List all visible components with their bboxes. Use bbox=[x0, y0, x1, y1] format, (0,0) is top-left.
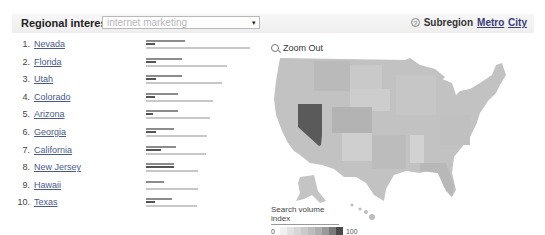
bar-top bbox=[146, 58, 182, 60]
region-bars bbox=[146, 181, 256, 193]
region-row: 2.Florida bbox=[0, 55, 260, 72]
region-bars bbox=[146, 40, 256, 52]
region-rank: 10. bbox=[17, 197, 30, 207]
search-volume-legend: Search volume index 0 100 bbox=[271, 205, 358, 235]
region-bars bbox=[146, 75, 256, 87]
legend-swatch bbox=[315, 227, 322, 235]
bar-top bbox=[146, 93, 178, 95]
legend-swatch bbox=[322, 227, 329, 235]
bar-mid bbox=[146, 201, 155, 203]
legend-swatch bbox=[287, 227, 294, 235]
region-bars bbox=[146, 198, 256, 210]
subregion-label: Subregion bbox=[424, 17, 473, 28]
region-row: 7.California bbox=[0, 143, 260, 160]
regional-interest-header: Regional interest internet marketing ▾ ?… bbox=[12, 14, 534, 33]
bar-low bbox=[146, 100, 213, 102]
help-icon[interactable]: ? bbox=[411, 18, 420, 27]
region-link[interactable]: California bbox=[34, 145, 72, 155]
region-link[interactable]: Colorado bbox=[34, 92, 71, 102]
region-link[interactable]: Nevada bbox=[34, 39, 65, 49]
dropdown-arrow-icon[interactable]: ▾ bbox=[250, 18, 258, 27]
region-rank: 2. bbox=[22, 57, 30, 67]
bar-top bbox=[146, 75, 182, 77]
region-row: 8.New Jersey bbox=[0, 160, 260, 177]
legend-swatch bbox=[294, 227, 301, 235]
bar-top bbox=[146, 128, 174, 130]
zoom-out-button[interactable]: Zoom Out bbox=[271, 43, 323, 53]
bar-low bbox=[146, 188, 198, 190]
region-bars bbox=[146, 58, 256, 70]
bar-mid bbox=[146, 78, 156, 80]
region-bars bbox=[146, 128, 256, 140]
bar-top bbox=[146, 40, 185, 42]
zoom-out-label: Zoom Out bbox=[283, 43, 323, 53]
us-map[interactable] bbox=[270, 55, 515, 225]
bar-top bbox=[146, 163, 174, 165]
region-row: 4.Colorado bbox=[0, 90, 260, 107]
section-title: Regional interest bbox=[21, 17, 110, 29]
legend-swatch bbox=[301, 227, 308, 235]
subregion-selector: ?SubregionMetro City bbox=[411, 17, 527, 28]
zoom-out-icon bbox=[271, 44, 279, 52]
region-link[interactable]: New Jersey bbox=[34, 162, 81, 172]
region-rank: 9. bbox=[22, 180, 30, 190]
bar-top bbox=[146, 110, 178, 112]
bar-mid bbox=[146, 43, 155, 45]
legend-swatch bbox=[336, 227, 343, 235]
bar-mid bbox=[146, 166, 174, 168]
search-term-value: internet marketing bbox=[107, 17, 187, 29]
legend-swatch bbox=[329, 227, 336, 235]
bar-low bbox=[146, 153, 206, 155]
bar-mid bbox=[146, 113, 153, 115]
region-rank: 3. bbox=[22, 74, 30, 84]
bar-low bbox=[146, 117, 210, 119]
bar-top bbox=[146, 181, 164, 183]
region-bars bbox=[146, 93, 256, 105]
bar-low bbox=[146, 47, 250, 49]
bar-low bbox=[146, 205, 197, 207]
bar-mid bbox=[146, 96, 155, 98]
legend-max: 100 bbox=[346, 228, 358, 235]
bar-low bbox=[146, 82, 222, 84]
search-term-dropdown[interactable]: internet marketing ▾ bbox=[102, 16, 260, 29]
region-rank: 1. bbox=[22, 39, 30, 49]
region-link[interactable]: Hawaii bbox=[34, 180, 61, 190]
legend-swatch bbox=[280, 227, 287, 235]
state-alaska[interactable] bbox=[296, 175, 326, 203]
region-rank: 4. bbox=[22, 92, 30, 102]
region-row: 6.Georgia bbox=[0, 125, 260, 142]
region-rank: 6. bbox=[22, 127, 30, 137]
region-bars bbox=[146, 163, 256, 175]
legend-swatch bbox=[308, 227, 315, 235]
bar-top bbox=[146, 198, 172, 200]
bar-top bbox=[146, 146, 176, 148]
region-row: 5.Arizona bbox=[0, 107, 260, 124]
region-link[interactable]: Arizona bbox=[34, 109, 65, 119]
bar-low bbox=[146, 170, 198, 172]
region-rank: 8. bbox=[22, 162, 30, 172]
bar-mid bbox=[146, 131, 156, 133]
region-link[interactable]: Georgia bbox=[34, 127, 66, 137]
region-link[interactable]: Utah bbox=[34, 74, 53, 84]
region-row: 10.Texas bbox=[0, 195, 260, 212]
legend-scale: 0 100 bbox=[271, 227, 358, 235]
legend-title: Search volume index bbox=[271, 205, 339, 225]
region-row: 9.Hawaii bbox=[0, 178, 260, 195]
region-rank: 7. bbox=[22, 145, 30, 155]
region-link[interactable]: Florida bbox=[34, 57, 62, 67]
legend-swatches bbox=[280, 227, 343, 235]
region-bars bbox=[146, 110, 256, 122]
region-bars bbox=[146, 146, 256, 158]
metro-link[interactable]: Metro bbox=[477, 17, 504, 28]
city-link[interactable]: City bbox=[508, 17, 527, 28]
region-row: 1.Nevada bbox=[0, 37, 260, 54]
bar-mid bbox=[146, 149, 161, 151]
bar-low bbox=[146, 135, 207, 137]
region-row: 3.Utah bbox=[0, 72, 260, 89]
region-link[interactable]: Texas bbox=[34, 197, 58, 207]
legend-min: 0 bbox=[271, 228, 275, 235]
bar-low bbox=[146, 65, 227, 67]
region-rank: 5. bbox=[22, 109, 30, 119]
bar-mid bbox=[146, 61, 156, 63]
